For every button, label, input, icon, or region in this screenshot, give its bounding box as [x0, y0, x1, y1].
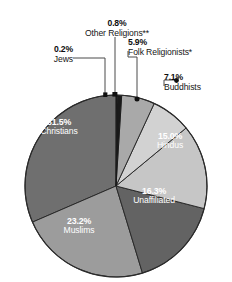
callout-other-religions-name: Other Religions**: [58, 29, 176, 39]
marker-folk: [135, 97, 140, 102]
callout-buddhists: 7.1% Buddhists: [164, 73, 201, 92]
callout-jews: 0.2% Jews: [5, 45, 73, 64]
leader-folk: [128, 51, 137, 97]
pie-chart: 0.8% Other Religions** 0.2% Jews 5.9% Fo…: [0, 0, 232, 282]
slice-label-hindus-name: Hindus: [138, 141, 202, 151]
marker-other-religions: [112, 92, 117, 97]
callout-folk-religionists-name: Folk Religionists*: [128, 48, 192, 58]
leader-jews: [73, 58, 105, 95]
slice-label-muslims-name: Muslims: [38, 226, 120, 236]
marker-jews: [103, 92, 107, 97]
slice-label-unaffiliated: 16.3% Unaffiliated: [112, 186, 196, 206]
slice-label-muslims: 23.2% Muslims: [38, 216, 120, 236]
callout-other-religions: 0.8% Other Religions**: [58, 19, 176, 38]
slice-label-hindus: 15.0% Hindus: [138, 131, 202, 151]
slice-label-christians: 31.5% Christians: [17, 117, 101, 137]
callout-folk-religionists: 5.9% Folk Religionists*: [128, 38, 192, 57]
callout-buddhists-name: Buddhists: [164, 83, 201, 93]
slice-label-christians-name: Christians: [17, 127, 101, 137]
callout-jews-name: Jews: [5, 55, 73, 65]
slice-label-unaffiliated-name: Unaffiliated: [112, 196, 196, 206]
